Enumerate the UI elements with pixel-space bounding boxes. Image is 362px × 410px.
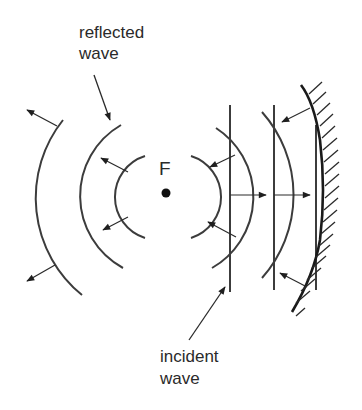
incident-wavefronts bbox=[230, 105, 316, 292]
reflected-wavefronts bbox=[36, 112, 294, 295]
arrow-reflect-top-mirror bbox=[282, 108, 310, 122]
reflected-arc-3-left bbox=[36, 120, 82, 295]
arrow-reflect-bottom-mirror bbox=[280, 273, 307, 287]
reflected-arc-1-right bbox=[191, 156, 221, 238]
arrow-reflect-outer-top bbox=[27, 110, 57, 126]
reflected-wave-label-line2: wave bbox=[79, 44, 119, 64]
incident-wave-pointer bbox=[189, 287, 225, 340]
arrow-reflect-top-right bbox=[210, 155, 235, 167]
arrow-reflect-outer-bottom bbox=[27, 265, 55, 281]
propagation-arrows bbox=[27, 108, 310, 287]
mirror-surface bbox=[292, 85, 323, 312]
reflected-arc-2-right bbox=[212, 128, 253, 268]
focus-label: F bbox=[159, 159, 171, 179]
reflected-wave-label-line1: reflected bbox=[79, 23, 144, 43]
arrow-reflect-bottom-right bbox=[208, 222, 236, 237]
reflected-wave-pointer bbox=[94, 75, 110, 120]
focus-point bbox=[162, 189, 171, 198]
incident-wave-label-line2: wave bbox=[160, 369, 200, 389]
mirror-hatching bbox=[296, 82, 339, 316]
reflected-arc-1-left bbox=[115, 156, 145, 238]
reflected-arc-2-left bbox=[80, 125, 123, 268]
arrow-reflect-left-1 bbox=[101, 158, 128, 172]
incident-wave-label-line1: incident bbox=[160, 347, 219, 367]
